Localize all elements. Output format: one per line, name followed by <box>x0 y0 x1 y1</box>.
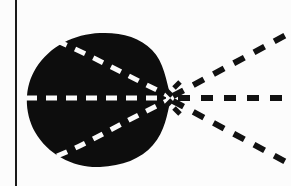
figure-vector-drawing <box>0 0 291 186</box>
figure-canvas <box>0 0 291 186</box>
